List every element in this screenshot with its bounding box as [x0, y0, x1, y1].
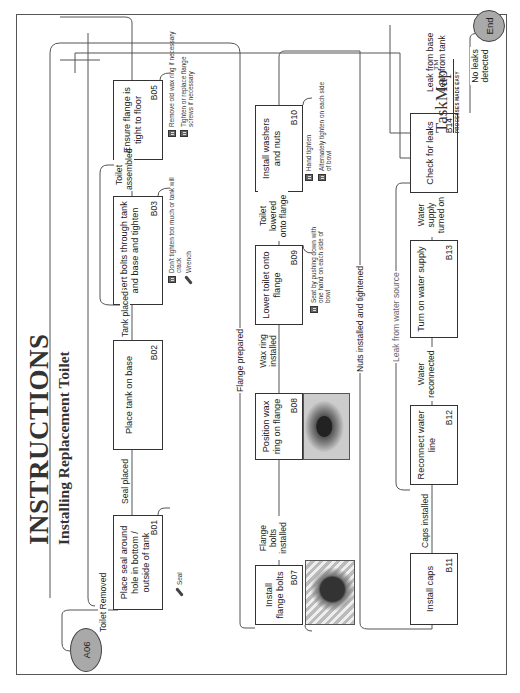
step-label: Position wax ring on flange — [261, 398, 283, 455]
step-id: B11 — [444, 558, 454, 573]
annotation-b10-note1: Hand tighten — [305, 135, 312, 171]
step-id: B13 — [444, 245, 454, 260]
edge-label-water-reconnected: Water reconnected — [416, 347, 436, 401]
step-label: Install washers and nuts — [261, 110, 283, 187]
annotation-b03-note: Don't tighten too much or tank will crac… — [168, 163, 182, 273]
edge-label-toilet-lowered: Toilet lowered onto flange — [258, 191, 288, 241]
note-icon — [310, 306, 318, 313]
note-icon — [168, 276, 176, 283]
step-b05[interactable]: Ensure flange is tight to floor B05 — [113, 80, 163, 160]
annotation-b05-note1: Remove old wax ring if necessary — [168, 31, 175, 127]
edge-label-tank-placed: Tank placed — [120, 290, 130, 338]
photo-flange-bolts — [305, 560, 355, 625]
edge-label-nuts-installed: Nuts installed and tightened — [355, 265, 365, 373]
end-node[interactable]: End — [473, 10, 505, 42]
edge-label-water-supply-on: Water supply turned on — [416, 193, 446, 237]
note-icon — [305, 174, 313, 181]
step-id: B09 — [289, 250, 299, 265]
rotated-page: INSTRUCTIONS Installing Replacement Toil… — [0, 0, 520, 693]
edge-label-toilet-assembled: Toilet assembled — [114, 159, 134, 191]
note-icon — [318, 174, 326, 181]
edge-label-flange-bolts-installed: Flange bolts installed — [258, 516, 288, 560]
annotation-seal: Seal — [176, 572, 183, 585]
annotation-b09-note: Seat by pushing down with one hand on ea… — [310, 223, 331, 303]
step-label: Place tank on base — [124, 345, 135, 445]
step-b03[interactable]: Insert bolts through tank and base and t… — [113, 196, 163, 305]
step-b10[interactable]: Install washers and nuts B10 — [255, 105, 303, 192]
step-id: B10 — [289, 110, 299, 125]
step-b01[interactable]: Place seal around hole in bottom / outsi… — [113, 515, 163, 610]
step-b13[interactable]: Turn on water supply B13 — [410, 240, 458, 338]
step-label: Turn on water supply — [416, 245, 427, 333]
step-b11[interactable]: Install caps B11 — [410, 553, 458, 625]
step-b02[interactable]: Place tank on base B02 — [113, 340, 163, 450]
step-id: B01 — [149, 520, 159, 535]
logo-tagline: PROCESSES MADE EASY — [453, 59, 460, 133]
step-id: B05 — [149, 85, 159, 100]
edge-label-no-leaks: No leaks detected — [470, 47, 490, 85]
step-b08[interactable]: Position wax ring on flange B08 — [255, 393, 303, 460]
end-node-label: End — [484, 18, 495, 35]
step-id: B07 — [289, 570, 299, 585]
step-label: Ensure flange is tight to floor — [122, 85, 144, 155]
edge-label-seal-placed: Seal placed — [120, 458, 130, 505]
photo-wax-ring — [303, 393, 350, 460]
step-id: B12 — [444, 410, 454, 425]
note-icon — [168, 130, 176, 137]
start-node-label: A06 — [81, 642, 92, 659]
start-node-a06[interactable]: A06 — [70, 628, 102, 672]
logo-name: TaskMap — [432, 70, 451, 133]
edge-label-leak-water-source: Leak from water source — [391, 271, 401, 363]
step-id: B03 — [149, 201, 159, 216]
step-label: Install caps — [425, 558, 436, 620]
step-id: B08 — [289, 398, 299, 413]
step-label: Lower toilet onto flange — [261, 250, 283, 320]
step-b09[interactable]: Lower toilet onto flange B09 — [255, 245, 303, 325]
edge-label-caps-installed: Caps installed — [420, 493, 430, 549]
step-b07[interactable]: Install flange bolts B07 — [255, 565, 303, 625]
step-label: Reconnect water line — [416, 410, 438, 480]
edge-label-wax-ring-installed: Wax ring installed — [258, 331, 278, 371]
annotation-b10-note2: Alternately tighten on each side of bowl — [318, 81, 332, 171]
edge-label-flange-prepared: Flange prepared — [235, 328, 245, 393]
step-label: Insert bolts through tank and base and t… — [119, 201, 141, 300]
annotation-b05-note2: Tighten or replace flange screws if nece… — [180, 37, 194, 127]
edge-label-toilet-removed: Toilet Removed — [98, 572, 108, 633]
step-b12[interactable]: Reconnect water line B12 — [410, 405, 458, 485]
step-label: Place seal around hole in bottom / outsi… — [119, 520, 152, 605]
step-label: Install flange bolts — [264, 570, 286, 620]
logo-tm: TM — [432, 59, 440, 70]
note-icon — [180, 130, 188, 137]
annotation-wrench: Wrench — [185, 251, 192, 273]
taskmap-logo: TaskMapTM PROCESSES MADE EASY — [432, 59, 460, 133]
step-id: B02 — [149, 345, 159, 360]
